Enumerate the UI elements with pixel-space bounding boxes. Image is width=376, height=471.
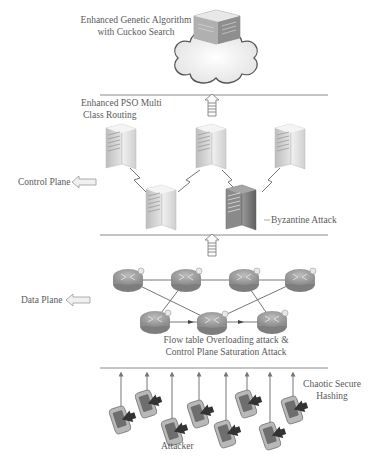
control-plane-label: Control Plane bbox=[18, 176, 71, 188]
server-2 bbox=[196, 124, 226, 169]
server-4 bbox=[146, 185, 176, 230]
data-plane-label: Data Plane bbox=[21, 294, 62, 306]
control-plane-arrow-icon bbox=[72, 176, 96, 188]
server-1 bbox=[106, 124, 136, 169]
data-plane-arrow-icon bbox=[66, 294, 90, 306]
server-3 bbox=[275, 124, 305, 169]
chaotic-hashing-label: Chaotic Secure Hashing bbox=[302, 378, 362, 402]
server-compromised bbox=[226, 185, 256, 230]
routing-label: Enhanced PSO Multi Class Routing bbox=[81, 97, 162, 121]
attacker-label: Attacker bbox=[161, 440, 194, 452]
cloud-label: Enhanced Genetic Algorithm with Cuckoo S… bbox=[76, 14, 196, 38]
byzantine-attack-label: Byzantine Attack bbox=[271, 214, 337, 226]
flow-table-attack-label: Flow table Overloading attack & Control … bbox=[156, 334, 296, 358]
